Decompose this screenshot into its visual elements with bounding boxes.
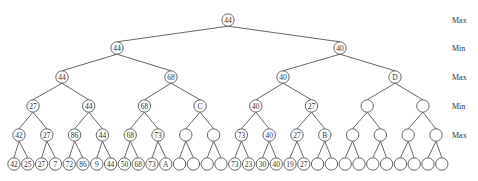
node-value: 68 — [167, 73, 175, 82]
tree-edge — [395, 83, 423, 100]
node-value: B — [322, 131, 327, 140]
tree-node — [374, 129, 386, 141]
tree-node: A — [160, 158, 172, 170]
tree-edge — [33, 112, 47, 129]
node-value: 72 — [65, 160, 73, 169]
tree-node: 19 — [284, 158, 296, 170]
node-value: 86 — [79, 160, 87, 169]
tree-edge — [97, 141, 103, 158]
tree-edge — [19, 112, 33, 129]
tree-edge — [353, 141, 359, 158]
tree-node — [311, 158, 323, 170]
tree-node — [367, 158, 379, 170]
node-circle — [374, 129, 386, 141]
node-value: 73 — [148, 160, 156, 169]
tree-node — [408, 158, 420, 170]
tree-node: 68 — [124, 129, 136, 141]
tree-edge — [171, 83, 200, 100]
tree-edge — [318, 141, 325, 158]
node-value: 73 — [154, 131, 162, 140]
node-value: 7 — [54, 160, 58, 169]
tree-edge — [19, 141, 28, 158]
tree-edge — [256, 83, 283, 100]
tree-node: 68 — [132, 158, 144, 170]
tree-edge — [380, 141, 386, 158]
tree-node: B — [319, 129, 331, 141]
tree-node: 7 — [49, 158, 61, 170]
tree-node — [339, 158, 351, 170]
tree-node: 73 — [152, 129, 164, 141]
level-label-max: Max — [452, 16, 467, 25]
tree-node — [430, 129, 442, 141]
tree-node: 27 — [298, 158, 310, 170]
node-value: 27 — [300, 160, 308, 169]
node-value: 27 — [38, 160, 46, 169]
tree-node: 86 — [68, 129, 80, 141]
node-value: 50 — [121, 160, 129, 169]
tree-node — [422, 158, 434, 170]
tree-node — [180, 129, 192, 141]
tree-node: 68 — [138, 100, 150, 112]
node-value: 44 — [107, 160, 115, 169]
node-value: A — [163, 160, 169, 169]
level-label-min: Min — [452, 44, 465, 53]
tree-edge — [130, 112, 144, 129]
node-circle — [207, 129, 219, 141]
tree-edge — [423, 112, 436, 129]
tree-edge — [340, 54, 395, 71]
tree-node: 30 — [256, 158, 268, 170]
tree-edge — [367, 112, 380, 129]
tree-edge — [373, 141, 381, 158]
node-value: 30 — [259, 160, 267, 169]
node-circle — [430, 129, 442, 141]
tree-node — [353, 158, 365, 170]
tree-edge — [75, 112, 89, 129]
tree-node: 23 — [242, 158, 254, 170]
node-value: 42 — [15, 131, 23, 140]
tree-node: 9 — [91, 158, 103, 170]
tree-node: 40 — [277, 71, 289, 83]
tree-edge — [200, 112, 214, 129]
tree-edge — [102, 141, 110, 158]
tree-edge — [130, 141, 138, 158]
node-value: 40 — [272, 160, 280, 169]
tree-edge — [312, 112, 325, 129]
tree-node: 27 — [35, 158, 47, 170]
tree-edge — [428, 141, 436, 158]
tree-node: 25 — [22, 158, 34, 170]
node-circle — [339, 158, 351, 170]
tree-node: 73 — [229, 158, 241, 170]
tree-edge — [408, 141, 414, 158]
tree-node: 68 — [165, 71, 177, 83]
node-circle — [187, 158, 199, 170]
node-value: 40 — [279, 73, 287, 82]
tree-node: 40 — [270, 158, 282, 170]
tree-edge — [241, 112, 255, 129]
tree-node: 72 — [63, 158, 75, 170]
tree-edge — [269, 141, 276, 158]
tree-edge — [152, 141, 158, 158]
tree-node — [207, 129, 219, 141]
tree-edge — [283, 83, 312, 100]
tree-edge — [256, 112, 269, 129]
node-value: 86 — [71, 131, 79, 140]
tree-edge — [69, 141, 74, 158]
node-value: 68 — [134, 160, 142, 169]
tree-node — [436, 158, 448, 170]
node-value: 40 — [252, 102, 260, 111]
tree-node: 40 — [334, 42, 346, 54]
tree-node: 42 — [13, 129, 25, 141]
node-value: 42 — [10, 160, 18, 169]
tree-node — [417, 100, 429, 112]
tree-edge — [325, 141, 332, 158]
node-value: 19 — [286, 160, 294, 169]
tree-node: 44 — [96, 129, 108, 141]
node-circle — [380, 158, 392, 170]
tree-edge — [62, 54, 117, 71]
tree-node — [361, 100, 373, 112]
node-value: 40 — [336, 44, 344, 53]
node-value: 27 — [43, 131, 51, 140]
node-value: 73 — [231, 160, 239, 169]
tree-node: 73 — [146, 158, 158, 170]
tree-node — [201, 158, 213, 170]
